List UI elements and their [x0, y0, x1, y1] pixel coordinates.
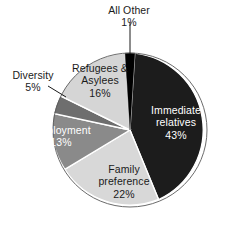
pie-label-immediate-name-1: Immediate: [138, 104, 214, 116]
pie-chart: All Other 1% Diversity 5% Refugees & Asy…: [0, 0, 227, 236]
pie-label-employment-name: Employment: [19, 124, 103, 136]
pie-label-family-name-2: preference: [86, 175, 162, 187]
pie-label-family-value: 22%: [86, 188, 162, 200]
pie-label-refugees-name-2: Asylees: [62, 74, 138, 86]
pie-label-refugees-asylees: Refugees & Asylees 16%: [62, 62, 138, 99]
pie-label-diversity: Diversity 5%: [2, 69, 64, 94]
pie-label-diversity-value: 5%: [2, 81, 64, 93]
pie-label-employment-value: 13%: [19, 136, 103, 148]
pie-label-employment: Employment 13%: [19, 124, 103, 149]
pie-label-family-preference: Family preference 22%: [86, 163, 162, 200]
pie-label-immediate-name-2: relatives: [138, 116, 214, 128]
pie-label-immediate-relatives: Immediate relatives 43%: [138, 104, 214, 141]
pie-label-all-other-value: 1%: [87, 16, 171, 28]
pie-label-refugees-value: 16%: [62, 87, 138, 99]
pie-label-all-other-name: All Other: [87, 4, 171, 16]
pie-label-immediate-value: 43%: [138, 129, 214, 141]
pie-label-refugees-name-1: Refugees &: [62, 62, 138, 74]
pie-label-diversity-name: Diversity: [2, 69, 64, 81]
pie-label-all-other: All Other 1%: [87, 4, 171, 29]
pie-label-family-name-1: Family: [86, 163, 162, 175]
